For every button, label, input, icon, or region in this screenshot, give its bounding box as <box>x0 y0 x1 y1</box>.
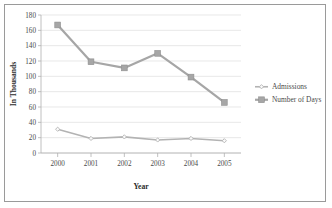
y-tick-label: 40 <box>29 119 37 127</box>
data-point <box>89 136 93 140</box>
y-tick-label: 120 <box>25 58 36 66</box>
y-tick-label: 0 <box>32 150 36 158</box>
data-point <box>188 74 194 80</box>
legend-label: Admissions <box>272 82 307 91</box>
series-line <box>58 129 225 141</box>
legend-marker <box>259 85 263 89</box>
data-point <box>156 138 160 142</box>
series-line <box>58 25 225 102</box>
y-tick-label: 180 <box>25 12 36 20</box>
data-point <box>56 127 60 131</box>
x-tick-label: 2003 <box>150 160 165 168</box>
data-point <box>88 59 94 65</box>
legend-marker <box>259 97 265 103</box>
data-point <box>222 139 226 143</box>
data-point <box>122 135 126 139</box>
chart-frame: 0204060801001201401601802000200120022003… <box>4 4 326 202</box>
data-point <box>221 100 227 106</box>
y-tick-label: 160 <box>25 27 36 35</box>
data-point <box>189 136 193 140</box>
data-point <box>55 22 61 28</box>
x-tick-label: 2005 <box>217 160 232 168</box>
x-tick-label: 2001 <box>84 160 99 168</box>
line-chart: 0204060801001201401601802000200120022003… <box>5 5 325 201</box>
y-tick-label: 140 <box>25 42 36 50</box>
legend-label: Number of Days <box>272 95 321 104</box>
x-axis-title: Year <box>133 182 149 191</box>
y-axis-title: In Thousands <box>9 62 18 106</box>
x-tick-label: 2000 <box>50 160 65 168</box>
series-number-of-days <box>55 22 227 105</box>
y-tick-label: 20 <box>29 134 37 142</box>
y-tick-label: 100 <box>25 73 36 81</box>
series-admissions <box>56 127 227 143</box>
data-point <box>155 50 161 56</box>
x-tick-label: 2004 <box>184 160 199 168</box>
legend: AdmissionsNumber of Days <box>255 82 321 104</box>
x-tick-label: 2002 <box>117 160 132 168</box>
y-tick-label: 80 <box>29 88 37 96</box>
data-point <box>121 65 127 71</box>
y-tick-label: 60 <box>29 104 37 112</box>
